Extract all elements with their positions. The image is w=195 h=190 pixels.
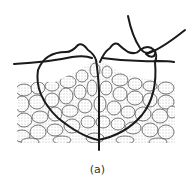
suture-strand-right-horizontal	[102, 58, 174, 62]
suture-strand-left-horizontal	[14, 56, 92, 64]
suture-diagram: (a)	[0, 0, 195, 190]
suture-knot-and-tail	[146, 30, 185, 57]
figure-caption: (a)	[0, 163, 195, 176]
suture-illustration	[0, 0, 195, 190]
